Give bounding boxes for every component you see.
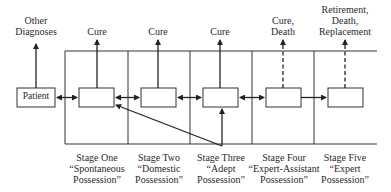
stage4-box <box>266 88 301 107</box>
outcome-label-stage4: Cure, Death <box>258 15 308 37</box>
stage-name: Stage Five <box>310 152 380 163</box>
outcome-label-stage5: Retirement, Death, Replacement <box>310 4 380 37</box>
stage-label-2: Stage Two “Domestic Possession” <box>124 152 194 185</box>
outcome-line: Death <box>258 26 308 37</box>
outcome-label-other-diagnoses: Other Diagnoses <box>4 15 68 37</box>
outcome-line: Cure, <box>258 15 308 26</box>
outcome-line: Replacement <box>310 26 380 37</box>
stage-label-1: Stage One “Spontaneous Possession” <box>62 152 132 185</box>
outcome-line: Cure <box>72 26 122 37</box>
outcome-line: Cure <box>195 26 245 37</box>
outcome-line: Cure <box>133 26 183 37</box>
outcome-line: Death, <box>310 15 380 26</box>
outcome-label-stage1: Cure <box>72 26 122 37</box>
outcome-label-stage2: Cure <box>133 26 183 37</box>
outcome-line: Other <box>4 15 68 26</box>
outcome-line: Retirement, <box>310 4 380 15</box>
arrow-entry-stage1 <box>116 105 222 146</box>
patient-label: Patient <box>17 91 55 101</box>
stage2-box <box>141 88 176 107</box>
stage-desc: Possession” <box>124 174 194 185</box>
stage-name: Stage Two <box>124 152 194 163</box>
stage-desc: “Spontaneous <box>62 163 132 174</box>
outcome-label-stage3: Cure <box>195 26 245 37</box>
stage-desc: Possession” <box>310 174 380 185</box>
stage-desc: “Expert <box>310 163 380 174</box>
stage1-box <box>79 88 114 107</box>
stage-desc: “Domestic <box>124 163 194 174</box>
stage-name: Stage One <box>62 152 132 163</box>
stage3-box <box>203 88 238 107</box>
stage-desc: Possession” <box>62 174 132 185</box>
stage5-box <box>328 88 363 107</box>
stage-label-5: Stage Five “Expert Possession” <box>310 152 380 185</box>
outcome-line: Diagnoses <box>4 26 68 37</box>
